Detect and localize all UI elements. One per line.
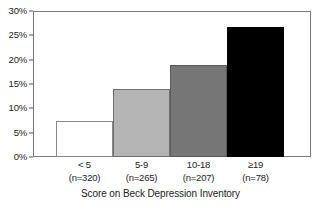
x-category-count: (n=265) <box>113 172 170 185</box>
x-category-ge19: ≥19 (n=78) <box>227 159 284 184</box>
x-axis-title: Score on Beck Depression Inventory <box>0 188 321 200</box>
bar-chart: 30% 25% 20% 15% 10% 5% 0% < 5 (n=320) 5-… <box>0 0 321 205</box>
x-axis-categories: < 5 (n=320) 5-9 (n=265) 10-18 (n=207) ≥1… <box>34 159 310 189</box>
x-category-5-9: 5-9 (n=265) <box>113 159 170 184</box>
y-tick-label-30: 30% <box>9 6 27 16</box>
bar-ge19 <box>227 27 284 158</box>
bar-lt5 <box>56 121 113 157</box>
x-category-count: (n=78) <box>227 172 284 185</box>
y-tick-label-0: 0% <box>14 152 27 162</box>
y-tick-label-5: 5% <box>14 128 27 138</box>
bars-layer <box>34 12 310 157</box>
bar-5-9 <box>113 89 170 157</box>
x-category-label: ≥19 <box>227 159 284 172</box>
x-category-label: 5-9 <box>113 159 170 172</box>
x-category-count: (n=320) <box>56 172 113 185</box>
bar-10-18 <box>170 65 227 157</box>
x-category-count: (n=207) <box>170 172 227 185</box>
y-tick-label-20: 20% <box>9 55 27 65</box>
x-category-label: 10-18 <box>170 159 227 172</box>
x-category-lt5: < 5 (n=320) <box>56 159 113 184</box>
x-category-label: < 5 <box>56 159 113 172</box>
y-tick-label-10: 10% <box>9 104 27 114</box>
x-category-10-18: 10-18 (n=207) <box>170 159 227 184</box>
y-tick-label-25: 25% <box>9 31 27 41</box>
y-axis: 30% 25% 20% 15% 10% 5% 0% <box>0 0 30 165</box>
y-tick-label-15: 15% <box>9 79 27 89</box>
